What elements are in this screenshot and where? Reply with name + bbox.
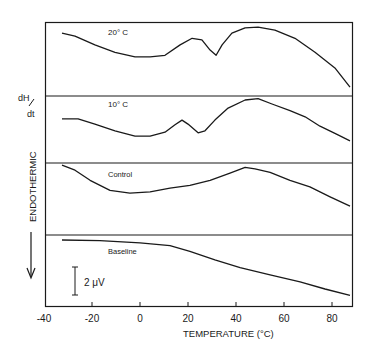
x-tick-label: 40 [230,313,242,324]
plot-frame [46,23,353,307]
panel-label-baseline: Baseline [108,247,137,256]
y-axis-label: dH dt ENDOTHERMIC [18,93,38,278]
x-tick-label: 60 [278,313,290,324]
scale-bar-label: 2 μV [84,277,105,288]
x-axis-tick-labels: -40-20020406080 [37,313,338,324]
ylabel-endothermic: ENDOTHERMIC [27,151,38,222]
x-tick-label: -40 [37,313,52,324]
curves [62,27,350,295]
panel-frames [45,23,353,307]
x-tick-label: 0 [137,313,143,324]
x-axis-ticks [92,302,332,306]
scale-bar [72,267,78,295]
curve-20-c [62,27,350,87]
curve-baseline [62,240,350,295]
x-tick-label: -20 [85,313,100,324]
x-tick-label: 80 [326,313,338,324]
ylabel-dh: dH [18,93,30,103]
panel-label-control: Control [108,170,133,179]
ylabel-dt: dt [27,109,35,119]
thermogram-figure: -40-20020406080 20° C 10° C Control Base… [0,0,372,357]
curve-10-c [62,99,350,141]
x-tick-label: 20 [182,313,194,324]
panel-label-20c: 20° C [108,28,128,37]
ylabel-slash [29,99,34,106]
x-axis-label: TEMPERATURE (°C) [183,328,274,339]
curve-control [62,165,350,206]
panel-label-10c: 10° C [108,100,128,109]
